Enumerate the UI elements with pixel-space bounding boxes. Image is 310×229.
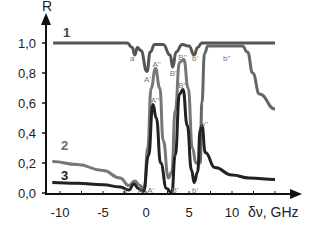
- x-tick-label: 5: [185, 205, 192, 220]
- y-tick-label: 0,4: [18, 126, 36, 141]
- y-tick-label: 0,6: [18, 96, 36, 111]
- point-label: b'': [223, 54, 231, 63]
- x-tick-label: 0: [142, 205, 149, 220]
- y-tick-label: 0,2: [18, 156, 36, 171]
- y-axis-title: R: [42, 0, 52, 14]
- point-label: B': [170, 69, 177, 78]
- curve-2-label: 2: [61, 138, 68, 153]
- curve-1-lower-branch-: [200, 46, 275, 163]
- curve-1-label: 1: [63, 25, 70, 40]
- point-label: A': [144, 75, 151, 84]
- curve-3-label: 3: [61, 168, 68, 183]
- point-label: A'': [153, 60, 162, 69]
- x-tick-label: -10: [51, 205, 70, 220]
- x-tick-label: -5: [97, 205, 109, 220]
- y-tick-label: 0,0: [18, 186, 36, 201]
- point-label: B'': [178, 81, 187, 90]
- x-axis-title: δν, GHz: [248, 204, 299, 220]
- y-axis-arrow-icon: [41, 13, 51, 25]
- y-tick-label: 1,0: [18, 36, 36, 51]
- point-label: a: [130, 54, 135, 63]
- point-label: b'': [201, 120, 209, 129]
- y-ticks: 0,00,20,40,60,81,0: [18, 36, 46, 201]
- plot-curves: [52, 43, 275, 193]
- reflectance-chart: aA'A''A''B'B''B''b'b''b''B'b'A'A'a 0,00,…: [0, 0, 310, 229]
- y-tick-label: 0,8: [18, 66, 36, 81]
- point-label: b': [192, 54, 198, 63]
- x-axis-arrow-icon: [290, 189, 302, 199]
- x-ticks: -10-50510: [51, 191, 275, 220]
- point-label: A'': [151, 96, 160, 105]
- x-tick-label: 10: [225, 205, 239, 220]
- point-label: B'': [178, 53, 187, 62]
